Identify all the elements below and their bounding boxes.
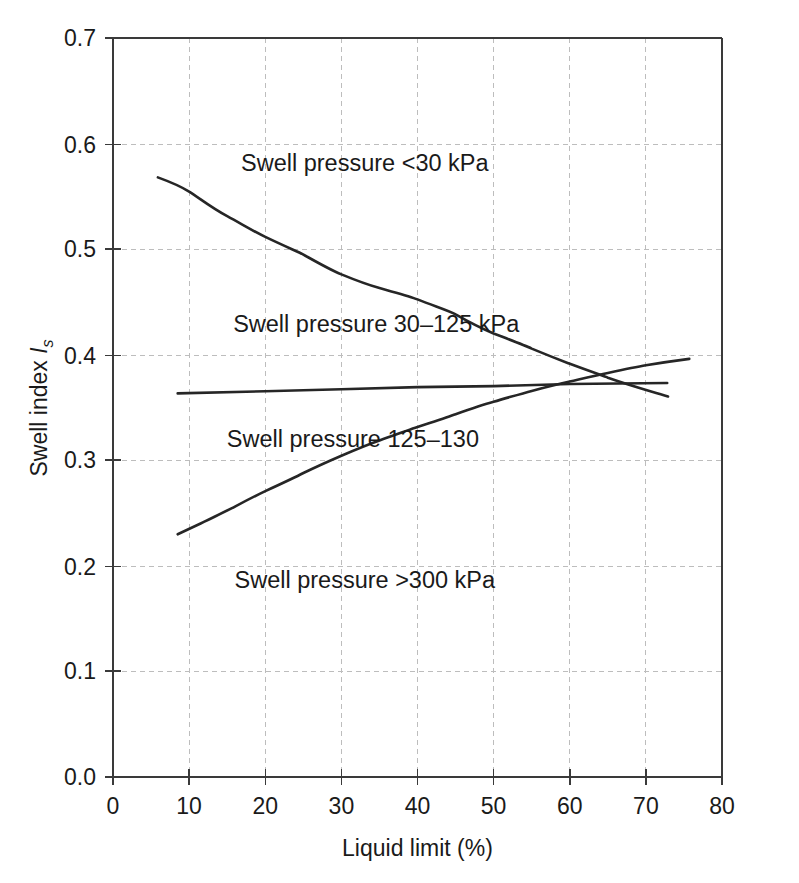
annotation-label: Swell pressure <30 kPa	[241, 150, 489, 176]
x-axis-title: Liquid limit (%)	[342, 835, 493, 861]
y-axis-tick-labels: 0.7 0.6 0.5 0.4 0.3 0.2 0.1 0.0	[64, 25, 96, 790]
y-tick-label: 0.2	[64, 554, 96, 580]
y-tick-label: 0.1	[64, 658, 96, 684]
x-tick-label: 40	[405, 793, 431, 819]
annotation-label: Swell pressure 125–130	[227, 426, 479, 452]
y-axis-title-text: Swell index	[26, 354, 52, 477]
x-tick-label: 50	[481, 793, 507, 819]
y-axis-title-subscript: s	[39, 339, 56, 347]
x-tick-label: 60	[557, 793, 583, 819]
x-tick-label: 10	[176, 793, 202, 819]
series-line-swell-pressure-30-125	[178, 383, 668, 393]
x-tick-label: 0	[107, 793, 120, 819]
x-tick-label: 20	[253, 793, 279, 819]
y-tick-label: 0.4	[64, 343, 96, 369]
chart-annotations: Swell pressure <30 kPa Swell pressure 30…	[227, 150, 520, 593]
x-tick-label: 30	[329, 793, 355, 819]
y-tick-label: 0.5	[64, 236, 96, 262]
figure-container: 0.7 0.6 0.5 0.4 0.3 0.2 0.1 0.0 0 10 20 …	[0, 0, 799, 883]
x-tick-label: 70	[633, 793, 659, 819]
y-tick-label: 0.0	[64, 764, 96, 790]
y-axis-title: Swell index Is	[26, 339, 56, 476]
y-tick-label: 0.7	[64, 25, 96, 51]
annotation-label: Swell pressure 30–125 kPa	[233, 311, 520, 337]
series-line-swell-pressure-lt-30	[158, 177, 668, 396]
page-caption-remnant	[26, 861, 766, 875]
annotation-label: Swell pressure >300 kPa	[234, 567, 496, 593]
y-tick-label: 0.6	[64, 132, 96, 158]
svg-text:Swell index Is: Swell index Is	[26, 339, 56, 476]
swell-index-vs-liquid-limit-chart: 0.7 0.6 0.5 0.4 0.3 0.2 0.1 0.0 0 10 20 …	[0, 0, 799, 883]
y-tick-label: 0.3	[64, 447, 96, 473]
x-tick-label: 80	[709, 793, 735, 819]
x-axis-tick-labels: 0 10 20 30 40 50 60 70 80	[107, 793, 735, 819]
